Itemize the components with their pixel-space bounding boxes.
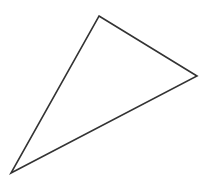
triangle-diagram xyxy=(0,0,210,191)
triangle-shape xyxy=(11,16,197,173)
diagram-canvas xyxy=(0,0,210,191)
